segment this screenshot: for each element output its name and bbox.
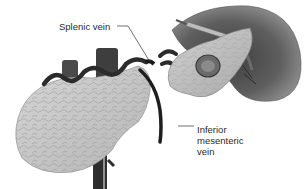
label-line-1: Inferior	[197, 124, 243, 135]
pancreas	[16, 66, 151, 173]
splenic-vein-leader-line	[117, 26, 150, 62]
label-line-2: mesenteric	[197, 135, 243, 146]
medical-illustration: Splenic vein Inferior mesenteric vein	[0, 0, 306, 189]
illustration-canvas	[0, 0, 306, 189]
label-line-3: vein	[197, 146, 243, 157]
inferior-mesenteric-vein-label: Inferior mesenteric vein	[197, 124, 243, 157]
splenic-vein-label: Splenic vein	[59, 21, 110, 32]
